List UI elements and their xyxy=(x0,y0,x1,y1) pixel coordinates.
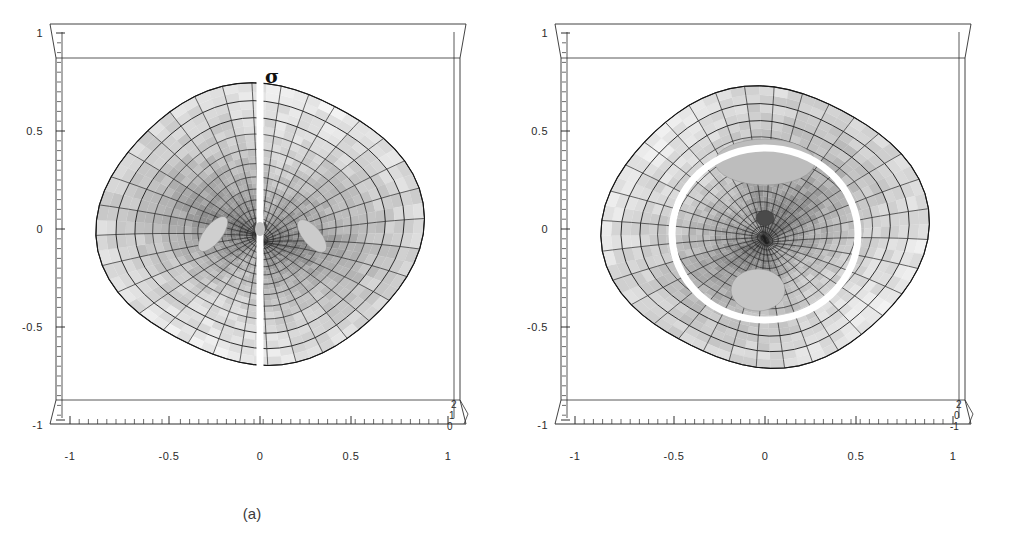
x-tick-label: 0.5 xyxy=(848,451,865,462)
x-tick-label: 0 xyxy=(762,451,769,462)
y-tick-label: -0.5 xyxy=(527,322,548,333)
plot-area-a: σ 1 0.5 0 -0.5 -1 -1 -0.5 0 0.5 1 2 1 0 xyxy=(48,22,468,442)
x-tick-label: -1 xyxy=(65,451,76,462)
y-tick-label: -1 xyxy=(537,420,548,431)
panel-caption-a: (a) xyxy=(0,505,504,522)
z-tick-label: 2 xyxy=(451,400,457,410)
x-tick-label: -0.5 xyxy=(159,451,180,462)
y-tick-label: 0.5 xyxy=(26,126,43,137)
x-tick-label: 1 xyxy=(445,451,452,462)
panel-a: σ 1 0.5 0 -0.5 -1 -1 -0.5 0 0.5 1 2 1 0 … xyxy=(0,0,504,559)
axis-box-b xyxy=(553,22,973,442)
y-tick-label: 0 xyxy=(36,224,43,235)
panel-b: 1 0.5 0 -0.5 -1 -1 -0.5 0 0.5 1 2 0 -1 (… xyxy=(505,0,1009,559)
y-tick-label: 1 xyxy=(541,28,548,39)
x-tick-label: 0.5 xyxy=(343,451,360,462)
branch-cut-sigma-label: σ xyxy=(265,65,279,87)
y-tick-label: 0.5 xyxy=(531,126,548,137)
y-tick-label: 1 xyxy=(36,28,43,39)
x-tick-label: -0.5 xyxy=(664,451,685,462)
z-tick-label: 1 xyxy=(449,411,455,421)
x-tick-label: 0 xyxy=(257,451,264,462)
y-tick-label: -1 xyxy=(32,420,43,431)
figure-two-riemann-surfaces: σ 1 0.5 0 -0.5 -1 -1 -0.5 0 0.5 1 2 1 0 … xyxy=(0,0,1009,559)
y-tick-label: 0 xyxy=(541,224,548,235)
z-tick-label: 2 xyxy=(956,400,962,410)
x-tick-label: -1 xyxy=(570,451,581,462)
y-tick-label: -0.5 xyxy=(22,322,43,333)
x-tick-label: 1 xyxy=(950,451,957,462)
axis-box-a xyxy=(48,22,468,442)
z-tick-label: 0 xyxy=(447,422,453,432)
z-tick-label: 0 xyxy=(954,411,960,421)
plot-area-b: 1 0.5 0 -0.5 -1 -1 -0.5 0 0.5 1 2 0 -1 xyxy=(553,22,973,442)
z-tick-label: -1 xyxy=(950,422,959,432)
